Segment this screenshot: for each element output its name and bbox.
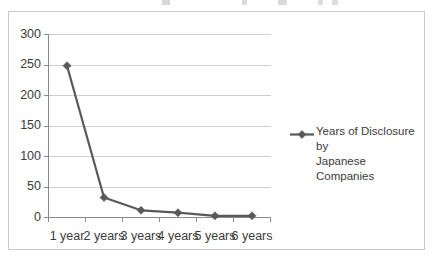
chart-frame: 300 250 200 150 100 50 0 1 year 2 years … bbox=[8, 11, 425, 250]
y-tick-label-150: 150 bbox=[7, 119, 41, 132]
y-tick-label-0: 0 bbox=[7, 211, 41, 224]
data-point-3-years bbox=[137, 206, 145, 214]
data-point-1-year bbox=[63, 62, 71, 70]
legend-label-line-2: Japanese Companies bbox=[316, 154, 418, 184]
series-line-years-of-disclosure bbox=[67, 66, 252, 216]
y-tick-label-250: 250 bbox=[7, 58, 41, 71]
y-tick-label-200: 200 bbox=[7, 89, 41, 102]
y-tick-label-50: 50 bbox=[7, 180, 41, 193]
x-tick-label-6-years: 6 years bbox=[225, 230, 279, 243]
y-tick-label-300: 300 bbox=[7, 28, 41, 41]
data-point-2-years bbox=[100, 194, 108, 202]
data-point-6-years bbox=[248, 212, 256, 220]
series-markers bbox=[63, 62, 256, 220]
gridlines bbox=[48, 35, 271, 188]
data-point-5-years bbox=[211, 212, 219, 220]
y-axis-ticks bbox=[44, 35, 48, 218]
legend-label-line-1: Years of Disclosure by bbox=[316, 124, 418, 154]
data-point-4-years bbox=[174, 209, 182, 217]
scan-artifact-top-text bbox=[150, 0, 400, 5]
y-tick-label-100: 100 bbox=[7, 150, 41, 163]
legend-marker-icon bbox=[290, 129, 314, 140]
legend-entry-label: Years of Disclosure by Japanese Companie… bbox=[316, 124, 418, 184]
